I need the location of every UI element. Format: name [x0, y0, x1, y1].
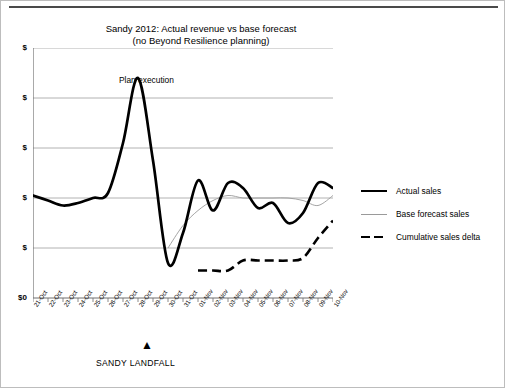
- legend-item-cumulative-sales-delta: Cumulative sales delta: [361, 225, 480, 248]
- legend-label: Cumulative sales delta: [396, 232, 480, 242]
- chart-figure: Sandy 2012: Actual revenue vs base forec…: [0, 0, 505, 388]
- top-rule-divider: [9, 6, 498, 8]
- chart-title-line-2: (no Beyond Resilience planning): [56, 35, 346, 47]
- chart-canvas: [33, 48, 333, 303]
- y-axis-tick-label: $: [5, 193, 27, 202]
- chart-legend: Actual sales Base forecast sales Cumulat…: [361, 179, 480, 248]
- chart-title-line-1: Sandy 2012: Actual revenue vs base forec…: [56, 23, 346, 35]
- y-axis-tick-label: $: [5, 93, 27, 102]
- line-solid-thin-icon: [361, 209, 387, 219]
- y-axis-tick-label: $: [5, 143, 27, 152]
- y-axis-tick-label: $: [5, 43, 27, 52]
- plot-area: [33, 48, 333, 303]
- line-solid-thick-icon: [361, 186, 387, 196]
- legend-label: Actual sales: [396, 186, 441, 196]
- line-dashed-icon: [361, 232, 387, 242]
- y-axis-tick-label: $: [5, 243, 27, 252]
- legend-item-base-forecast-sales: Base forecast sales: [361, 202, 480, 225]
- y-axis-tick-label: $0: [5, 293, 27, 302]
- landfall-arrow-icon: ▲: [141, 339, 153, 351]
- sandy-landfall-annotation-label: SANDY LANDFALL: [96, 358, 175, 368]
- legend-item-actual-sales: Actual sales: [361, 179, 480, 202]
- chart-title: Sandy 2012: Actual revenue vs base forec…: [56, 23, 346, 47]
- legend-label: Base forecast sales: [396, 209, 469, 219]
